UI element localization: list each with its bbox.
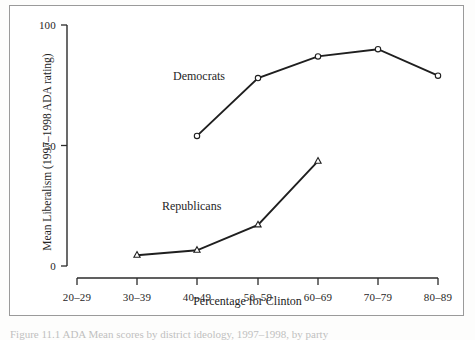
figure-frame: 100 50 0 20–29 30–39 40–49 50–59 60–69 7… [9, 5, 464, 316]
figure-page: 100 50 0 20–29 30–39 40–49 50–59 60–69 7… [0, 0, 475, 340]
data-point-democrats-50-59 [255, 75, 260, 80]
data-point-republicans-60-69 [315, 158, 321, 164]
data-point-republicans-30-39 [134, 252, 140, 258]
figure-caption: Figure 11.1 ADA Mean scores by district … [10, 330, 328, 340]
series-line-democrats [197, 49, 438, 136]
figure-caption-strip: Figure 11.1 ADA Mean scores by district … [0, 330, 475, 340]
data-point-democrats-60-69 [315, 54, 320, 59]
series-label-democrats: Democrats [173, 69, 225, 84]
data-point-democrats-40-49 [194, 133, 199, 138]
series-label-republicans: Republicans [162, 199, 221, 214]
data-point-democrats-70-79 [375, 47, 380, 52]
data-point-republicans-40-49 [194, 247, 200, 253]
x-axis-title: Percentage for Clinton [10, 294, 475, 309]
y-axis-title: Mean Liberalism (1997–1998 ADA rating) [41, 37, 53, 267]
line-chart-plot [10, 6, 465, 317]
data-point-democrats-80-89 [435, 73, 440, 78]
y-tick-label-100: 100 [18, 19, 56, 31]
